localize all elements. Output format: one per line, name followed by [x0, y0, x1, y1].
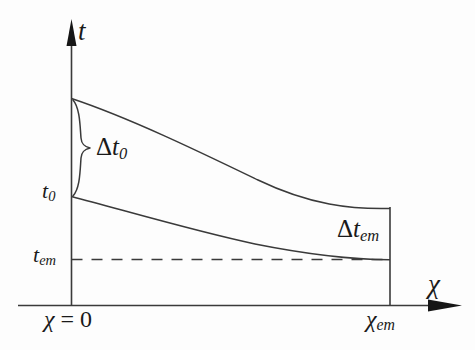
tem-subscript: em	[39, 252, 56, 268]
figure-canvas: t χ t0 tem Δt0 Δtem χ = 0 χem	[0, 0, 475, 350]
t0-subscript: 0	[48, 188, 55, 204]
delta-symbol: Δ	[337, 215, 353, 242]
chi-em-base: χ	[366, 306, 377, 332]
chi-zero-base: χ	[44, 306, 55, 332]
y-axis-arrow-icon	[67, 19, 77, 46]
chi-zero-label: χ = 0	[44, 307, 92, 331]
delta-tem-base: t	[353, 215, 360, 242]
tem-label: tem	[33, 244, 56, 268]
chi-em-subscript: em	[377, 316, 395, 333]
chi-zero-equals: = 0	[55, 306, 93, 332]
x-axis-arrow-icon	[428, 300, 462, 312]
delta-t0-brace	[73, 100, 90, 196]
delta-symbol: Δ	[96, 133, 112, 160]
delta-tem-subscript: em	[360, 226, 379, 245]
delta-tem-label: Δtem	[337, 216, 379, 244]
delta-t0-subscript: 0	[119, 144, 127, 163]
y-axis-label: t	[78, 18, 86, 45]
diagram-svg	[0, 0, 475, 350]
chi-em-label: χem	[366, 307, 395, 333]
delta-t0-label: Δt0	[96, 134, 127, 162]
t0-label: t0	[42, 180, 55, 204]
x-axis-label: χ	[428, 271, 440, 298]
delta-t0-base: t	[112, 133, 119, 160]
